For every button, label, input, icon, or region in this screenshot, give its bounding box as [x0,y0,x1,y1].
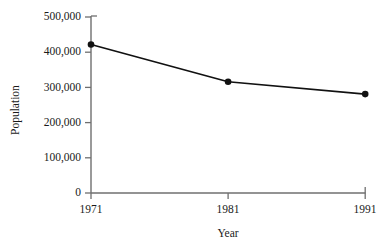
x-tick-label-1971: 1971 [61,204,121,216]
y-tick-label-500000: 500,000 [19,11,81,23]
x-tick-label-1991: 1991 [335,204,392,216]
population-line-chart: 500,000 400,000 300,000 200,000 100,000 … [0,0,392,250]
x-axis-title: Year [198,228,258,240]
data-point-markers [88,41,369,97]
y-tick-label-100000: 100,000 [19,152,81,164]
x-tick-label-1981: 1981 [198,204,258,216]
y-axis-title: Population [10,85,22,135]
y-tick-label-0: 0 [19,187,81,199]
x-axis-ticks [91,16,365,199]
y-tick-label-300000: 300,000 [19,82,81,94]
data-point-1981[interactable] [225,78,232,85]
y-tick-label-400000: 400,000 [19,46,81,58]
y-tick-label-200000: 200,000 [19,117,81,129]
data-point-1971[interactable] [88,41,95,48]
population-data-line [91,44,365,94]
data-point-1991[interactable] [362,91,369,98]
